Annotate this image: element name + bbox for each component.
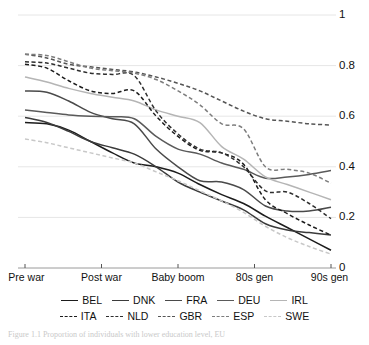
chart-plot-area — [0, 0, 369, 275]
legend-label-IRL: IRL — [291, 295, 307, 306]
legend-row-2: ITANLDGBRESPSWE — [0, 308, 369, 324]
x-tick-label-post-war: Post war — [81, 272, 122, 283]
y-tick-label-0.8: 0.8 — [339, 60, 355, 72]
legend-swatch-ESP — [212, 316, 229, 317]
legend-swatch-IRL — [270, 300, 287, 301]
figure-container: 10.80.60.40.20 Pre warPost warBaby boom8… — [0, 0, 369, 345]
legend-label-ITA: ITA — [81, 311, 97, 322]
legend-item-ITA[interactable]: ITA — [60, 311, 97, 322]
series-line-ESP — [25, 54, 331, 183]
chart-legend: BELDNKFRADEUIRLITANLDGBRESPSWE — [0, 292, 369, 326]
y-tick-label-0.4: 0.4 — [339, 161, 355, 173]
series-line-SWE — [25, 139, 331, 254]
legend-item-IRL[interactable]: IRL — [270, 295, 307, 306]
legend-label-SWE: SWE — [285, 311, 309, 322]
x-tick-label-pre-war: Pre war — [8, 272, 44, 283]
x-tick-label-80s-gen: 80s gen — [236, 272, 273, 283]
legend-label-ESP: ESP — [233, 311, 254, 322]
legend-item-ESP[interactable]: ESP — [212, 311, 254, 322]
series-line-NLD — [25, 62, 331, 219]
legend-label-FRA: FRA — [186, 295, 207, 306]
legend-swatch-SWE — [264, 316, 281, 317]
legend-swatch-NLD — [106, 316, 123, 317]
legend-item-BEL[interactable]: BEL — [61, 295, 102, 306]
series-line-BEL — [25, 123, 331, 251]
legend-label-DEU: DEU — [238, 295, 260, 306]
legend-item-FRA[interactable]: FRA — [165, 295, 207, 306]
legend-label-GBR: GBR — [179, 311, 202, 322]
legend-label-DNK: DNK — [133, 295, 155, 306]
series-line-FRA — [25, 91, 331, 212]
legend-swatch-GBR — [158, 316, 175, 317]
legend-item-DEU[interactable]: DEU — [217, 295, 260, 306]
legend-swatch-DNK — [112, 300, 129, 301]
legend-swatch-DEU — [217, 300, 234, 301]
legend-swatch-BEL — [61, 300, 78, 301]
y-tick-label-0.2: 0.2 — [339, 211, 355, 223]
legend-row-1: BELDNKFRADEUIRL — [0, 292, 369, 308]
legend-label-BEL: BEL — [82, 295, 102, 306]
legend-swatch-ITA — [60, 316, 77, 317]
legend-swatch-FRA — [165, 300, 182, 301]
y-tick-label-0.6: 0.6 — [339, 110, 355, 122]
legend-item-NLD[interactable]: NLD — [106, 311, 148, 322]
legend-item-GBR[interactable]: GBR — [158, 311, 202, 322]
x-tick-label-baby-boom: Baby boom — [151, 272, 204, 283]
figure-caption: Figure 1.1 Proportion of individuals wit… — [8, 330, 363, 340]
legend-item-DNK[interactable]: DNK — [112, 295, 155, 306]
x-axis-tick-labels: Pre warPost warBaby boom80s gen90s gen — [0, 272, 369, 288]
legend-item-SWE[interactable]: SWE — [264, 311, 309, 322]
y-tick-label-1: 1 — [339, 9, 345, 21]
chart-svg — [0, 0, 369, 275]
legend-label-NLD: NLD — [127, 311, 148, 322]
x-tick-label-90s-gen: 90s gen — [311, 272, 348, 283]
series-line-DEU — [25, 110, 331, 179]
